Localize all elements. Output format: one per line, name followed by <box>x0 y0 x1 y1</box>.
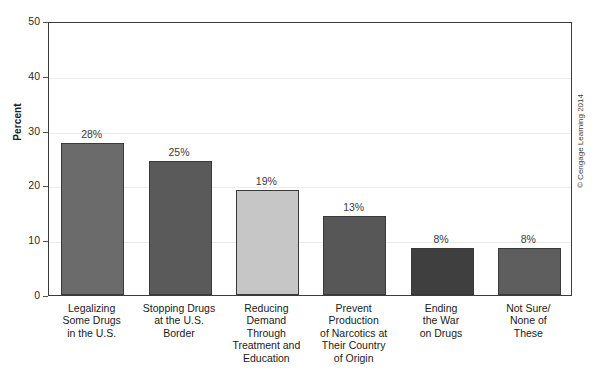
y-tick-label: 10 <box>14 234 40 246</box>
bar[interactable] <box>323 216 386 295</box>
bar[interactable] <box>498 248 561 295</box>
bars-layer <box>49 23 571 295</box>
y-axis-title: Percent <box>12 92 23 152</box>
y-tick-label: 20 <box>14 179 40 191</box>
bar[interactable] <box>61 143 124 295</box>
bar-value-label: 8% <box>411 233 471 245</box>
y-tick-mark <box>43 296 48 297</box>
y-tick-label: 30 <box>14 125 40 137</box>
category-label: LegalizingSome Drugsin the U.S. <box>44 302 140 339</box>
plot-area <box>48 22 572 296</box>
category-label: Endingthe Waron Drugs <box>393 302 489 339</box>
bar[interactable] <box>411 248 474 295</box>
bar[interactable] <box>149 161 212 295</box>
y-tick-label: 0 <box>14 289 40 301</box>
bar-value-label: 19% <box>236 175 296 187</box>
bar-value-label: 28% <box>62 128 122 140</box>
y-tick-label: 50 <box>14 15 40 27</box>
category-label: Not Sure/None ofThese <box>480 302 576 339</box>
bar-chart: Percent 01020304050 28%25%19%13%8%8% Leg… <box>0 0 606 375</box>
category-label: PreventProductionof Narcotics atTheir Co… <box>306 302 402 364</box>
category-label: Stopping Drugsat the U.S.Border <box>131 302 227 339</box>
category-label: ReducingDemandThroughTreatment andEducat… <box>218 302 314 364</box>
bar-value-label: 25% <box>149 146 209 158</box>
bar-value-label: 8% <box>498 233 558 245</box>
bar[interactable] <box>236 190 299 295</box>
copyright-credit: © Cengage Learning 2014 <box>576 94 585 188</box>
y-tick-label: 40 <box>14 70 40 82</box>
bar-value-label: 13% <box>324 201 384 213</box>
